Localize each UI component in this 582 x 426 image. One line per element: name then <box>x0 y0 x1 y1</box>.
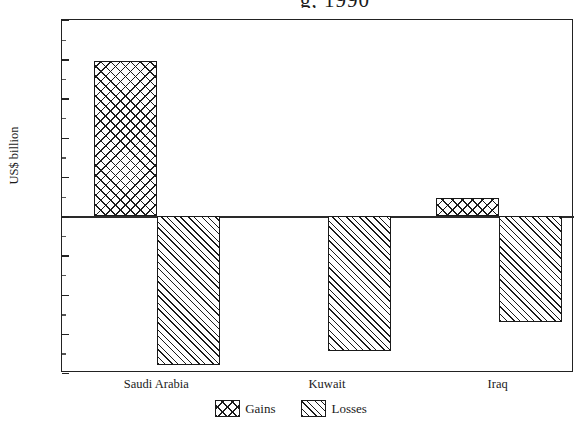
y-tick-minor <box>62 157 66 158</box>
y-tick <box>62 59 69 60</box>
legend-item-losses: Losses <box>301 400 366 417</box>
y-tick-minor <box>62 236 66 237</box>
diagonal-stripe-swatch <box>301 400 326 417</box>
y-tick <box>62 295 69 296</box>
y-tick-minor <box>62 40 66 41</box>
y-axis-title: US$ billion <box>7 106 22 206</box>
y-tick-minor <box>62 275 66 276</box>
x-axis-label: Saudi Arabia <box>76 377 236 392</box>
legend-label-losses: Losses <box>331 402 366 415</box>
y-tick-minor <box>62 197 66 198</box>
y-tick-minor <box>62 353 66 354</box>
y-tick <box>62 177 69 178</box>
y-tick <box>62 216 69 217</box>
y-tick-minor <box>62 118 66 119</box>
legend-item-gains: Gains <box>215 400 275 417</box>
bar-saudi-arabia-gains <box>94 61 157 216</box>
y-tick <box>62 255 69 256</box>
chart-figure: g, 1990 US$ billion 50403020100−10−20−30… <box>0 0 582 426</box>
bar-kuwait-losses <box>328 216 391 351</box>
bar-saudi-arabia-losses <box>157 216 220 365</box>
cross-hatch-swatch <box>215 400 240 417</box>
y-tick-minor <box>62 314 66 315</box>
y-tick <box>62 20 69 21</box>
zero-baseline <box>62 216 574 217</box>
y-tick <box>62 138 69 139</box>
legend-label-gains: Gains <box>245 402 275 415</box>
bar-iraq-losses <box>499 216 562 322</box>
x-axis-label: Iraq <box>418 377 578 392</box>
x-axis-label: Kuwait <box>247 377 407 392</box>
y-tick-minor <box>62 79 66 80</box>
chart-legend: Gains Losses <box>0 400 582 417</box>
y-tick <box>62 334 69 335</box>
y-tick <box>62 373 69 374</box>
plot-area: 50403020100−10−20−30−40 <box>61 19 573 372</box>
cropped-chart-title: g, 1990 <box>300 0 570 8</box>
bar-iraq-gains <box>436 198 499 216</box>
y-tick <box>62 98 69 99</box>
